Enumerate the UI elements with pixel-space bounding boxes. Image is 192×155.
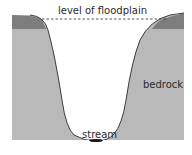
stream-label: stream: [82, 130, 117, 140]
floodplain-label: level of floodplain: [58, 6, 147, 16]
valley-cross-section: level of floodplain bedrock stream: [0, 0, 192, 155]
bedrock-label: bedrock: [143, 80, 183, 90]
